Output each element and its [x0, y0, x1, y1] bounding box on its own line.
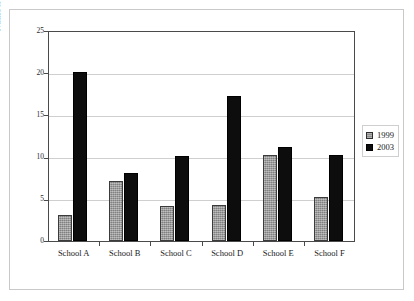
- bar[interactable]: [314, 197, 328, 241]
- bar[interactable]: [227, 96, 241, 241]
- y-tick-label-25: 25: [14, 27, 44, 35]
- bar-group: [49, 32, 100, 241]
- x-tick-mark: [150, 242, 151, 246]
- bar-group: [254, 32, 305, 241]
- legend-label-2003: 2003: [377, 143, 394, 152]
- x-tick-label-school-c: School C: [150, 248, 201, 258]
- bar-group: [305, 32, 356, 241]
- x-tick-mark: [253, 242, 254, 246]
- bar-group: [203, 32, 254, 241]
- x-tick-label-school-a: School A: [48, 248, 99, 258]
- bar[interactable]: [58, 215, 72, 241]
- chart-legend: 1999 2003: [362, 125, 399, 157]
- x-tick-label-school-b: School B: [99, 248, 150, 258]
- x-tick-label-school-d: School D: [202, 248, 253, 258]
- y-tick-label-0: 0: [14, 237, 44, 245]
- bar[interactable]: [109, 181, 123, 241]
- legend-item-2003[interactable]: 2003: [366, 141, 394, 153]
- bar-group: [151, 32, 202, 241]
- x-tick-mark: [202, 242, 203, 246]
- legend-label-1999: 1999: [377, 131, 394, 140]
- plot-area: [48, 31, 355, 242]
- legend-item-1999[interactable]: 1999: [366, 129, 394, 141]
- y-tick-label-5: 5: [14, 195, 44, 203]
- bar[interactable]: [212, 205, 226, 241]
- y-axis-title: Number of Agencies: [0, 0, 2, 58]
- x-axis-ticks: [48, 242, 355, 247]
- legend-swatch-2003-icon: [366, 144, 373, 151]
- bar[interactable]: [160, 206, 174, 241]
- x-tick-label-school-e: School E: [253, 248, 304, 258]
- bar[interactable]: [175, 156, 189, 241]
- chart-figure: Number of Agencies 25 20 15 10 5 0 Schoo…: [0, 0, 414, 301]
- x-axis-labels: School ASchool BSchool CSchool DSchool E…: [48, 248, 355, 268]
- y-tick-label-10: 10: [14, 153, 44, 161]
- y-tick-label-15: 15: [14, 111, 44, 119]
- y-axis-ticks: 25 20 15 10 5 0: [10, 31, 44, 242]
- x-tick-mark: [304, 242, 305, 246]
- y-tick-label-20: 20: [14, 69, 44, 77]
- x-tick-mark: [99, 242, 100, 246]
- bar[interactable]: [329, 155, 343, 241]
- legend-swatch-1999-icon: [366, 132, 373, 139]
- bar-group: [100, 32, 151, 241]
- x-tick-label-school-f: School F: [304, 248, 355, 258]
- bar[interactable]: [278, 147, 292, 241]
- bar[interactable]: [263, 155, 277, 241]
- bar[interactable]: [124, 173, 138, 241]
- bar[interactable]: [73, 72, 87, 241]
